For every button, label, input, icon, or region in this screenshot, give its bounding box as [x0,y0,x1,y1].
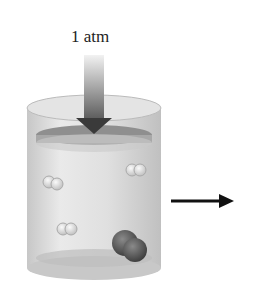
small-molecule [57,223,77,235]
right-arrow-icon [171,194,234,208]
small-molecule [126,164,146,176]
down-arrow-icon [76,55,112,134]
cylinder-diagram [0,0,256,300]
